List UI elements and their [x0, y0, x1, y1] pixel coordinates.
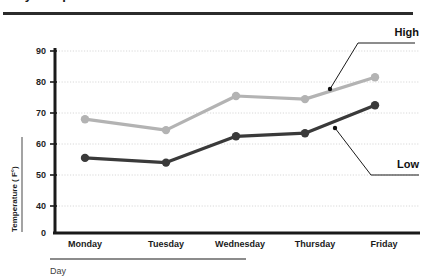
line-chart: 90 80 70 60 50 40 0 Temperature ( F°): [0, 0, 421, 279]
x-tick-label-tuesday: Tuesday: [148, 239, 184, 249]
series-line-low-path: [85, 105, 375, 162]
series-markers-low: [81, 101, 379, 167]
annotation-low-label: Low: [397, 158, 419, 170]
chart-container: Daily Temperatures 90 80 70: [0, 0, 421, 279]
y-tick-label-80: 80: [36, 77, 46, 87]
annotation-low-dot: [333, 126, 337, 130]
x-tick-label-monday: Monday: [68, 239, 102, 249]
gridlines: [56, 51, 420, 206]
y-tick-label-90: 90: [36, 46, 46, 56]
annotation-high-label: High: [395, 26, 420, 38]
x-tick-label-thursday: Thursday: [295, 239, 336, 249]
y-axis-title: Temperature ( F°): [10, 166, 19, 232]
x-tick-label-friday: Friday: [370, 239, 397, 249]
annotation-high: [328, 43, 415, 91]
y-tick-label-40: 40: [36, 201, 46, 211]
annotation-high-dot: [328, 87, 332, 91]
y-tick-label-50: 50: [36, 170, 46, 180]
y-tick-label-60: 60: [36, 139, 46, 149]
y-tick-label-0: 0: [41, 228, 46, 238]
y-tick-label-70: 70: [36, 108, 46, 118]
x-axis-title: Day: [50, 266, 67, 276]
x-tick-label-wednesday: Wednesday: [215, 239, 265, 249]
